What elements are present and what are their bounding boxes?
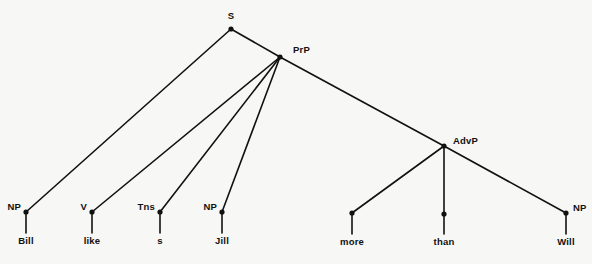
prp-to-advp	[280, 57, 444, 146]
node-dot-np-will	[563, 210, 568, 215]
node-label-v: V	[80, 202, 87, 212]
terminal-word-than: than	[434, 237, 455, 247]
terminal-word-bill: Bill	[18, 236, 34, 246]
node-dot-s	[228, 26, 233, 31]
node-label-s: S	[228, 11, 235, 21]
advp-to-more	[352, 146, 444, 213]
node-dot-tns	[157, 209, 162, 214]
s-to-prp	[231, 29, 280, 57]
s-to-np-bill	[26, 29, 231, 212]
node-dot-adv-more	[349, 210, 354, 215]
terminal-word-s: s	[157, 236, 162, 246]
prp-to-tns	[160, 57, 280, 212]
syntax-tree-figure: S PrP AdvP NP V Tns NP NP Bill like s Ji…	[0, 0, 592, 264]
node-dot-advp	[441, 143, 446, 148]
node-label-advp: AdvP	[453, 136, 478, 146]
node-dot-v-like	[89, 209, 94, 214]
node-dot-np-jill	[219, 209, 224, 214]
node-dot-adv-than	[441, 211, 446, 216]
branch-lines-group	[26, 29, 566, 214]
terminal-stems-group	[26, 212, 566, 234]
node-label-prp: PrP	[293, 45, 310, 55]
node-label-np-bill: NP	[7, 202, 21, 212]
terminal-word-will: Will	[557, 237, 575, 247]
terminal-word-more: more	[340, 237, 364, 247]
advp-to-np-will	[444, 146, 566, 213]
node-label-np-will: NP	[573, 203, 587, 213]
node-dot-np-bill	[23, 209, 28, 214]
node-label-tns: Tns	[138, 202, 156, 212]
terminal-word-jill: Jill	[215, 236, 229, 246]
node-label-np-jill: NP	[203, 202, 217, 212]
terminal-word-like: like	[84, 236, 101, 246]
tree-graphics	[0, 0, 592, 264]
node-dot-prp	[277, 54, 282, 59]
